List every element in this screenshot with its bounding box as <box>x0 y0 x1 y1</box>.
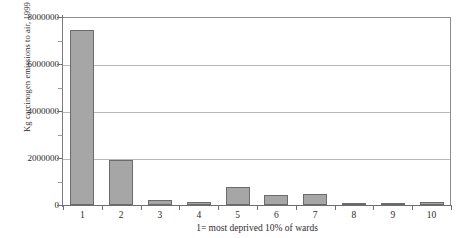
y-axis-tick-label: 4000000 <box>1 107 59 116</box>
bar <box>148 200 172 205</box>
y-axis-tick-labels: 80000006000000400000020000000 <box>0 0 59 238</box>
bar <box>303 194 327 205</box>
bar <box>226 187 250 205</box>
y-axis-tick-label: 2000000 <box>1 154 59 163</box>
y-axis-tick-label: 0 <box>1 201 59 210</box>
x-axis-tick-label: 5 <box>218 209 257 221</box>
bar <box>187 202 211 205</box>
bar-series <box>63 17 451 205</box>
bar-chart-figure: Kg carcinogen emissions to air, 1999 800… <box>0 0 461 238</box>
bar <box>342 203 366 205</box>
x-axis-tick-label: 1 <box>63 209 102 221</box>
x-axis-line <box>57 205 452 206</box>
x-axis-tick-label: 9 <box>373 209 412 221</box>
chart-title-cropped <box>0 0 461 9</box>
bar <box>420 202 444 205</box>
x-axis-tick-label: 10 <box>412 209 451 221</box>
x-axis-tick-label: 6 <box>257 209 296 221</box>
bar <box>381 203 405 205</box>
bar <box>264 195 288 205</box>
x-axis-tick <box>451 205 452 210</box>
x-axis-tick-label: 4 <box>179 209 218 221</box>
y-axis-tick-label: 8000000 <box>1 13 59 22</box>
x-axis-tick-label: 3 <box>141 209 180 221</box>
y-axis-tick-label: 6000000 <box>1 60 59 69</box>
x-axis-tick-label: 7 <box>296 209 335 221</box>
bar <box>109 160 133 205</box>
x-axis-tick-label: 8 <box>335 209 374 221</box>
x-axis-tick-labels: 12345678910 <box>63 209 451 222</box>
bar <box>70 30 94 205</box>
x-axis-tick-label: 2 <box>102 209 141 221</box>
x-axis-title: 1= most deprived 10% of wards <box>63 222 451 234</box>
